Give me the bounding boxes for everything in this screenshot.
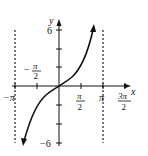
x-tick-label-3half-pi-num: 3π [117,91,128,101]
y-axis-arrow-icon [57,19,62,26]
x-tick-label-neg-half-pi-num: π [33,61,38,71]
x-tick-label-half-pi-num: π [77,91,82,101]
curve-arrow-bottom-icon [21,138,27,146]
x-axis-label: x [130,86,136,97]
x-tick-label-half-pi-den: 2 [78,102,83,112]
x-tick-label-neg-half-pi-den: 2 [34,71,39,81]
curve-arrow-top-icon [90,24,96,32]
x-tick-label-neg-half-pi-sign: − [24,64,30,75]
x-tick-label-pi: π [99,92,105,103]
x-tick-label-neg-pi: −π [3,92,16,103]
x-tick-label-3half-pi-den: 2 [122,102,127,112]
y-tick-label-neg6: −6 [40,138,51,149]
chart: y x 6 −6 −π − π 2 π 2 π 3π 2 [0,0,148,156]
y-tick-label-6: 6 [47,25,52,36]
chart-svg: y x 6 −6 −π − π 2 π 2 π 3π 2 [0,0,148,156]
